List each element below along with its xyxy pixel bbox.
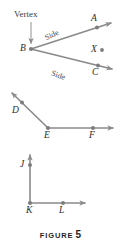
point-dot-b bbox=[29, 47, 33, 51]
point-label-f: F bbox=[89, 131, 95, 141]
figure-container: Vertex Side Side A B C X D E F J K L FIG… bbox=[0, 0, 121, 241]
angle-abc-group bbox=[29, 22, 112, 69]
point-label-e: E bbox=[44, 131, 50, 141]
angle-jkl-group bbox=[28, 155, 85, 205]
vertex-annotation-label: Vertex bbox=[14, 10, 38, 19]
point-label-x: X bbox=[91, 45, 97, 55]
point-label-k: K bbox=[26, 206, 32, 216]
figure-caption-number: 5 bbox=[75, 229, 81, 240]
figure-caption-word: FIGURE bbox=[40, 231, 74, 240]
ray-b-to-a bbox=[31, 23, 111, 49]
point-label-a: A bbox=[91, 14, 97, 24]
point-label-d: D bbox=[12, 106, 19, 116]
point-dot-j bbox=[28, 163, 32, 167]
angle-def-group bbox=[12, 93, 113, 130]
figure-caption: FIGURE5 bbox=[0, 224, 121, 241]
point-dot-x bbox=[100, 48, 104, 52]
point-dot-d bbox=[20, 101, 24, 105]
point-label-c: C bbox=[92, 68, 98, 78]
point-label-j: J bbox=[20, 160, 24, 170]
point-label-b: B bbox=[20, 44, 26, 54]
point-dot-a bbox=[95, 26, 99, 30]
point-label-l: L bbox=[59, 206, 64, 216]
